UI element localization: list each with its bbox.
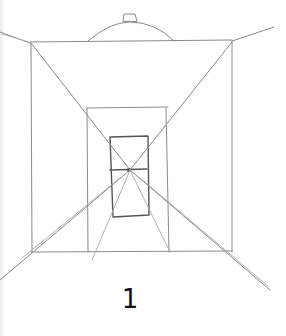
hallway-top	[87, 107, 168, 108]
ceiling-line	[30, 40, 232, 42]
diagonal-top-left	[31, 43, 270, 290]
diagonal-top-right	[0, 42, 232, 280]
ceiling-right-extension	[232, 27, 274, 41]
floor-line	[31, 251, 232, 252]
perspective-sketch	[0, 0, 286, 336]
hallway-right	[166, 108, 169, 252]
diagonal-floor-left	[92, 170, 130, 260]
figure-number: 1	[118, 284, 142, 314]
ceiling-lamp-icon	[88, 14, 174, 41]
door-frame	[110, 136, 149, 217]
outer-wall-left	[31, 43, 32, 252]
diagonal-floor-right	[130, 170, 170, 252]
hallway-left	[87, 108, 88, 252]
